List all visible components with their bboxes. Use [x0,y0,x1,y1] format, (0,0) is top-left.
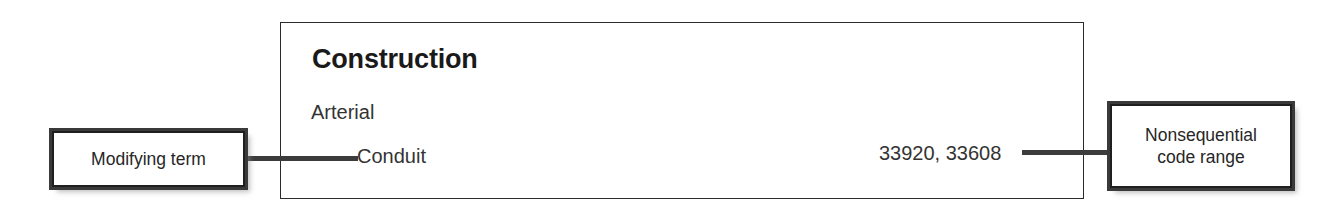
callout-code-range-line-1: Nonsequential [1145,125,1257,145]
leader-line-right [1022,150,1112,155]
callout-code-range-line-2: code range [1157,147,1245,167]
main-term-heading: Construction [312,44,478,75]
leader-line-left [248,156,358,161]
annotated-diagram: Construction Arterial Conduit 33920, 336… [0,0,1322,214]
callout-modifying-term: Modifying term [52,131,245,187]
subterm-label: Arterial [311,101,374,124]
modifying-term-label: Conduit [357,145,426,168]
callout-nonsequential-code-range: Nonsequentialcode range [1110,104,1292,188]
callout-code-range-label: Nonsequentialcode range [1139,124,1263,169]
callout-modifying-term-label: Modifying term [85,148,212,170]
code-range-label: 33920, 33608 [879,142,1001,165]
